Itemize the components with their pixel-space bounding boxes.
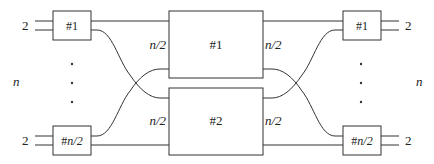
middle-block-1-left-port-label: n/2 bbox=[149, 37, 166, 52]
right-switch-n-over-2: #n/2 2 bbox=[343, 126, 412, 155]
left-switch-1: 2 #1 bbox=[22, 11, 91, 40]
right-switch-1: #1 2 bbox=[343, 11, 412, 40]
middle-block-1-label: #1 bbox=[210, 37, 223, 52]
right-n-label: n bbox=[416, 74, 423, 89]
left-switch-n2-port-count: 2 bbox=[22, 133, 29, 148]
middle-block-2-left-port-label: n/2 bbox=[149, 113, 166, 128]
left-switch-1-label: #1 bbox=[66, 19, 78, 33]
middle-block-2: #2 n/2 n/2 bbox=[149, 88, 282, 155]
right-switch-1-label: #1 bbox=[356, 19, 368, 33]
right-switch-n2-label: #n/2 bbox=[351, 134, 372, 148]
benes-network-diagram: n n 2 #1 2 #n/2 #1 2 #n/2 bbox=[0, 0, 434, 164]
middle-block-2-right-port-label: n/2 bbox=[265, 113, 282, 128]
middle-block-1: #1 n/2 n/2 bbox=[149, 11, 282, 78]
middle-block-1-right-port-label: n/2 bbox=[265, 37, 282, 52]
right-ellipsis-dots bbox=[360, 63, 362, 103]
right-switch-n2-port-count: 2 bbox=[405, 133, 412, 148]
left-switch-n2-label: #n/2 bbox=[61, 134, 82, 148]
right-switch-1-port-count: 2 bbox=[405, 18, 412, 33]
left-ellipsis-dots bbox=[71, 63, 73, 103]
left-switch-n-over-2: 2 #n/2 bbox=[22, 126, 91, 155]
middle-block-2-label: #2 bbox=[210, 113, 223, 128]
left-n-label: n bbox=[13, 74, 20, 89]
left-switch-1-port-count: 2 bbox=[22, 18, 29, 33]
